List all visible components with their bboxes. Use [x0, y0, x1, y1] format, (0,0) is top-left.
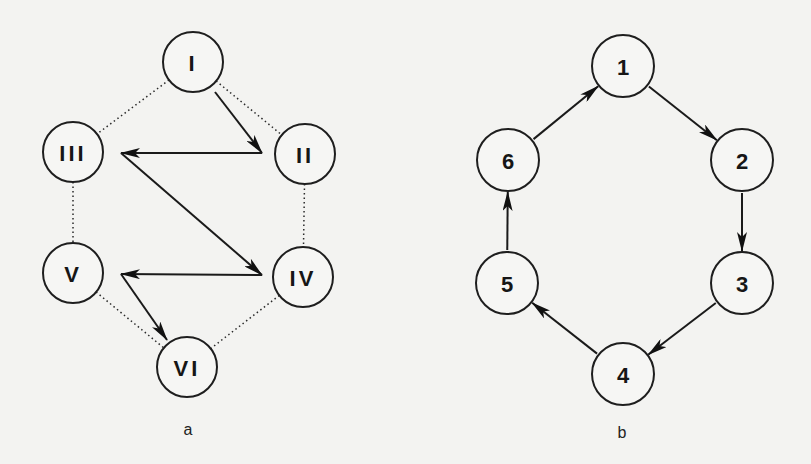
caption-a: a: [184, 421, 193, 438]
caption-b: b: [618, 424, 627, 441]
arrow-6-to-1: [534, 86, 599, 139]
node-label: I: [188, 51, 197, 76]
node-b-1: 1: [592, 35, 654, 97]
arrow-segment-1: [215, 92, 262, 153]
node-label: 6: [502, 149, 514, 174]
diagram-b-nodes: 123456: [476, 35, 773, 405]
node-b-4: 4: [592, 343, 654, 405]
node-label: II: [296, 143, 314, 168]
node-b-2: 2: [711, 129, 773, 191]
node-a-IV: IV: [273, 247, 333, 307]
dotted-edge-I-II: [216, 81, 282, 135]
node-label: IV: [290, 266, 317, 291]
node-b-5: 5: [476, 252, 538, 314]
node-label: III: [59, 141, 86, 166]
node-a-II: II: [275, 124, 335, 184]
diagram-a-dotted-edges: [73, 80, 305, 349]
node-label: 1: [617, 55, 629, 80]
node-a-III: III: [43, 122, 103, 182]
arrow-segment-3: [121, 153, 262, 275]
node-label: 4: [617, 363, 630, 388]
arrow-segment-5: [121, 274, 167, 340]
node-a-V: V: [43, 243, 103, 303]
arrow-4-to-5: [532, 303, 597, 354]
node-label: 5: [501, 272, 513, 297]
diagram-a-roman-graph: IIIIIIIVVVI a: [43, 32, 335, 438]
diagram-a-nodes: IIIIIIIVVVI: [43, 32, 335, 397]
dotted-edge-IV-VI: [211, 295, 280, 348]
diagram-canvas: IIIIIIIVVVI a 123456 b: [0, 0, 811, 464]
diagram-b-arrows: [507, 86, 742, 354]
diagram-a-arrow-path: [121, 92, 262, 340]
node-label: VI: [174, 356, 201, 381]
node-label: 3: [736, 272, 748, 297]
arrow-3-to-4: [648, 303, 715, 355]
node-label: 2: [736, 149, 748, 174]
node-a-I: I: [163, 32, 223, 92]
arrow-1-to-2: [649, 86, 717, 140]
dotted-edge-I-III: [97, 80, 169, 134]
dotted-edge-II-IV: [303, 184, 304, 247]
node-label: V: [64, 262, 82, 287]
node-b-6: 6: [477, 129, 539, 191]
node-a-VI: VI: [157, 337, 217, 397]
diagram-b-cycle-graph: 123456 b: [476, 35, 773, 441]
node-b-3: 3: [711, 252, 773, 314]
arrow-segment-4: [121, 274, 262, 275]
